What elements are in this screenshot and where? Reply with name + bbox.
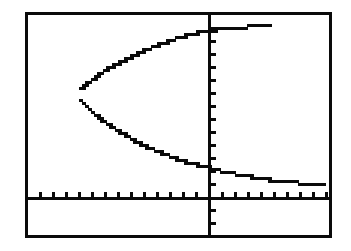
parabola-upper-branch [79,24,272,90]
y-axis [208,15,211,235]
y-axis-ticks [211,27,216,225]
x-axis [28,197,329,200]
x-axis-ticks [39,192,328,197]
calculator-screen-frame [25,12,332,238]
graph-canvas [28,15,329,235]
parabola-lower-branch [79,99,326,186]
graph-plot-area[interactable] [28,15,329,235]
screenshot-root [0,0,351,251]
